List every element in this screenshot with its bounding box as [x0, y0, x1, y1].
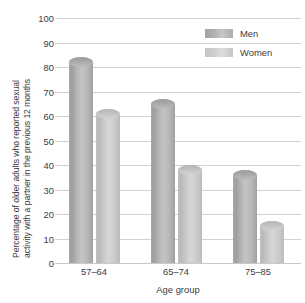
legend-label-men: Men: [240, 28, 258, 39]
bar-body: [69, 62, 93, 263]
bar-body: [96, 114, 120, 263]
bar-top-cap: [69, 57, 93, 67]
y-axis-tick-label: 40: [44, 160, 54, 171]
legend-swatch-men-icon: [205, 29, 233, 38]
bar-top-cap: [260, 221, 284, 231]
bar-body: [151, 104, 175, 263]
y-axis-tick-label: 60: [44, 111, 54, 122]
legend-swatch-women-icon: [205, 48, 233, 57]
bar-top-cap: [178, 165, 202, 175]
bar-women-65-74: [178, 165, 202, 263]
gridline: [55, 263, 301, 264]
bar-body: [233, 175, 257, 263]
y-axis-tick-labels: 0102030405060708090100: [30, 18, 54, 263]
bar-body: [178, 170, 202, 263]
bar-body: [260, 226, 284, 263]
chart-legend: Men Women: [205, 26, 301, 64]
bar-top-cap: [96, 109, 120, 119]
y-axis-tick-label: 80: [44, 62, 54, 73]
y-axis-tick-label: 20: [44, 209, 54, 220]
y-axis-tick-label: 90: [44, 37, 54, 48]
y-axis-tick-label: 30: [44, 184, 54, 195]
bar-top-cap: [233, 170, 257, 180]
bar-women-75-85: [260, 221, 284, 263]
y-axis-tick-label: 0: [49, 258, 54, 269]
bar-men-75-85: [233, 170, 257, 263]
legend-item-women: Women: [205, 45, 301, 60]
y-axis-tick-label: 50: [44, 135, 54, 146]
x-axis-tick-label: 75–85: [245, 266, 271, 277]
x-axis-tick-label: 57–64: [81, 266, 107, 277]
y-axis-tick-label: 10: [44, 233, 54, 244]
x-axis-title: Age group: [55, 284, 301, 295]
y-axis-title: Percentage of older adults who reported …: [0, 0, 34, 272]
x-axis-tick-labels: 57–6465–7475–85: [55, 266, 301, 282]
x-axis-tick-label: 65–74: [163, 266, 189, 277]
legend-item-men: Men: [205, 26, 301, 41]
bar-men-57-64: [69, 57, 93, 263]
y-axis-title-line-1: Percentage of older adults who reported …: [11, 80, 22, 258]
bar-top-cap: [151, 99, 175, 109]
bar-chart: Percentage of older adults who reported …: [0, 0, 305, 303]
bar-women-57-64: [96, 109, 120, 263]
y-axis-tick-label: 100: [38, 13, 54, 24]
legend-label-women: Women: [240, 47, 272, 58]
bar-men-65-74: [151, 99, 175, 263]
y-axis-tick-label: 70: [44, 86, 54, 97]
